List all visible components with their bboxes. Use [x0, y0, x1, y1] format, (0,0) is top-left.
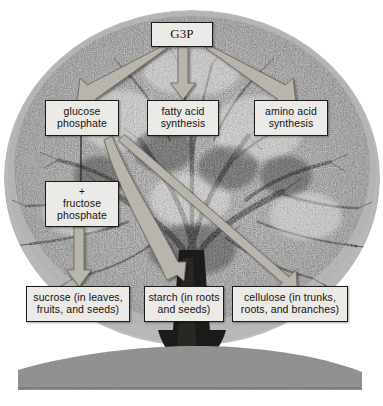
node-sucrose-line2: fruits, and seeds): [37, 304, 119, 316]
node-starch[interactable]: starch (in roots and seeds): [144, 286, 224, 322]
node-fatty-acid-synthesis[interactable]: fatty acid synthesis: [147, 100, 219, 136]
node-sucrose[interactable]: sucrose (in leaves, fruits, and seeds): [26, 286, 130, 322]
arrow-g3p-to-amino-acid: [205, 47, 297, 106]
node-cellulose-line2: roots, and branches): [241, 304, 339, 316]
node-cellulose[interactable]: cellulose (in trunks, roots, and branche…: [232, 286, 348, 322]
figure-canvas: G3P glucose phosphate fatty acid synthes…: [0, 0, 383, 406]
node-starch-line2: and seeds): [158, 304, 211, 316]
node-glucose-phosphate-line2: phosphate: [57, 118, 107, 130]
node-g3p[interactable]: G3P: [151, 22, 213, 47]
node-amino-acid-synthesis-line2: synthesis: [269, 118, 314, 130]
arrow-g3p-to-fatty-acid: [171, 47, 196, 100]
node-g3p-label: G3P: [170, 27, 193, 42]
node-fatty-acid-synthesis-line2: synthesis: [161, 118, 206, 130]
node-glucose-phosphate[interactable]: glucose phosphate: [45, 100, 119, 136]
node-fructose-phosphate[interactable]: + fructose phosphate: [45, 181, 119, 227]
node-fructose-phosphate-plus: +: [79, 187, 85, 197]
node-fructose-phosphate-line1: fructose: [63, 198, 101, 210]
arrow-fructose-phosphate-to-sucrose: [67, 227, 92, 287]
arrow-g3p-to-glucose-phosphate: [77, 47, 169, 106]
node-fructose-phosphate-line2: phosphate: [57, 210, 107, 222]
node-amino-acid-synthesis[interactable]: amino acid synthesis: [254, 100, 328, 136]
